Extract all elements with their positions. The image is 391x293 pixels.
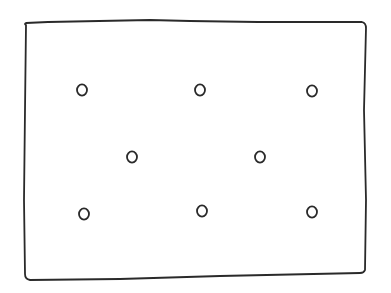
circle-grid [77,84,317,219]
circle-marker [307,206,317,217]
circle-marker [79,208,89,219]
circle-marker [307,85,317,96]
circle-marker [255,151,265,162]
circle-marker [127,151,137,162]
circle-marker [195,84,205,95]
circle-marker [197,205,207,216]
sketch-canvas [0,0,391,293]
circle-marker [77,84,87,95]
frame-rectangle [24,20,366,280]
